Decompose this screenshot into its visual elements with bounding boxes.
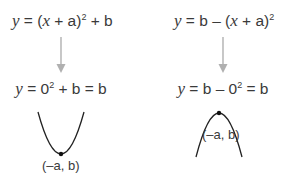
variable-x: x bbox=[42, 11, 50, 30]
equation-text: + b bbox=[86, 12, 112, 29]
equation-text: = 0 bbox=[23, 80, 49, 97]
left-parabola-minimum bbox=[38, 112, 84, 156]
right-vertex-label: (–a, b) bbox=[202, 128, 240, 142]
variable-y: y bbox=[12, 11, 20, 30]
equation-text: + a) bbox=[50, 12, 81, 29]
equation-text: + b = b bbox=[54, 80, 107, 97]
left-equation-vertex: y = 02 + b = b bbox=[14, 80, 108, 98]
left-equation-general: y = (x + a)2 + b bbox=[12, 12, 110, 30]
variable-y: y bbox=[174, 11, 182, 30]
equation-text: + a) bbox=[238, 12, 269, 29]
right-vertex-dot bbox=[217, 111, 221, 115]
variable-x: x bbox=[230, 11, 238, 30]
left-vertex-dot bbox=[59, 152, 63, 156]
right-down-arrow-icon bbox=[219, 37, 228, 73]
left-vertex-label: (–a, b) bbox=[42, 159, 80, 173]
equation-text: = b bbox=[242, 80, 268, 97]
right-equation-general: y = b – (x + a)2 bbox=[174, 12, 274, 30]
variable-y: y bbox=[15, 79, 23, 98]
left-down-arrow-icon bbox=[57, 37, 66, 73]
exponent: 2 bbox=[269, 12, 274, 22]
equation-text: = b – 0 bbox=[185, 80, 237, 97]
equation-text: = ( bbox=[20, 12, 43, 29]
equation-text: = b – ( bbox=[182, 12, 231, 29]
variable-y: y bbox=[178, 79, 186, 98]
right-equation-vertex: y = b – 02 = b bbox=[177, 80, 269, 98]
